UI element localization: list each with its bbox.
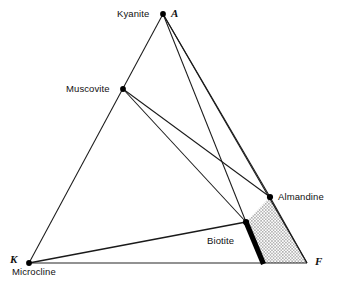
vertex-dot-a	[160, 11, 166, 17]
vertex-label-f: F	[315, 256, 322, 267]
vertex-label-a: A	[171, 8, 178, 19]
label-almandine: Almandine	[278, 192, 324, 202]
stippled-field	[246, 197, 307, 263]
point-dot-muscovite	[120, 86, 126, 92]
label-biotite: Biotite	[207, 236, 234, 246]
label-muscovite: Muscovite	[66, 84, 110, 94]
point-dot-biotite	[243, 219, 249, 225]
edge-a-k	[29, 14, 163, 263]
tieline-muscovite-biotite	[123, 89, 246, 222]
label-microcline: Microcline	[12, 267, 56, 277]
diagram-canvas	[0, 0, 340, 288]
point-dot-almandine	[267, 194, 273, 200]
tieline-a-biotite	[163, 14, 246, 222]
label-kyanite: Kyanite	[117, 9, 149, 19]
tieline-muscovite-almandine	[123, 89, 270, 197]
tieline-a-almandine	[163, 14, 270, 197]
vertex-label-k: K	[10, 254, 17, 265]
akf-diagram: Kyanite Muscovite Almandine Biotite Micr…	[0, 0, 340, 288]
